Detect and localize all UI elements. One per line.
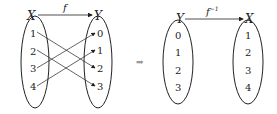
diagram-canvas: X Y f 1 2 3 4 0 1 2 3 ➡ Y X f−1 0 1 2 3 … (0, 0, 277, 114)
left-diagram: X Y f 1 2 3 4 0 1 2 3 (21, 2, 112, 108)
domain-element: 2 (175, 65, 181, 76)
codomain-element: 1 (97, 45, 103, 56)
codomain-x-label: X (244, 12, 254, 26)
codomain-element: 2 (97, 63, 103, 74)
codomain-element: 2 (245, 47, 251, 58)
domain-element: 2 (30, 46, 36, 57)
function-f-label: f (62, 2, 69, 13)
codomain-y-label: Y (94, 9, 103, 23)
domain-element: 1 (30, 28, 36, 39)
implies-arrow-icon: ➡ (136, 57, 144, 67)
codomain-element: 0 (97, 28, 103, 39)
right-diagram: Y X f−1 0 1 2 3 1 2 3 4 (163, 5, 263, 104)
domain-element: 4 (30, 81, 36, 92)
codomain-element: 4 (245, 82, 251, 93)
inverse-function-diagram: X Y f 1 2 3 4 0 1 2 3 ➡ Y X f−1 0 1 2 3 … (0, 0, 277, 114)
domain-y-label: Y (176, 12, 185, 26)
domain-x-label: X (26, 9, 36, 23)
codomain-element: 3 (245, 65, 251, 76)
domain-element: 0 (175, 30, 181, 41)
codomain-element: 1 (245, 30, 251, 41)
domain-element: 3 (30, 63, 36, 74)
domain-element: 3 (175, 82, 181, 93)
codomain-element: 3 (97, 81, 103, 92)
inverse-superscript: −1 (210, 5, 219, 12)
function-f-inverse-label: f−1 (205, 5, 219, 17)
domain-element: 1 (175, 47, 181, 58)
